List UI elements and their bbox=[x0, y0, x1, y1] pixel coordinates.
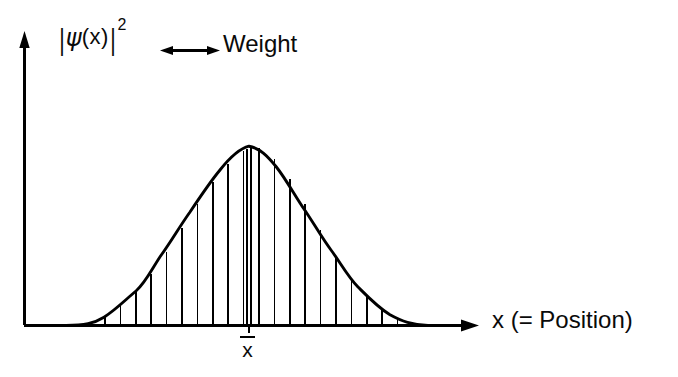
correspondence-arrowhead-right bbox=[207, 46, 220, 55]
psi-argument: (x) bbox=[82, 26, 109, 48]
abs-bar-open: | bbox=[59, 26, 64, 55]
squared-exponent: 2 bbox=[118, 17, 127, 33]
figure-root: | ψ (x) | 2 Weight x (= Position) x bbox=[0, 0, 678, 377]
x-axis-label: x (= Position) bbox=[492, 308, 633, 332]
correspondence-arrow-icon bbox=[160, 46, 220, 55]
y-axis bbox=[19, 31, 29, 325]
weight-label: Weight bbox=[223, 32, 297, 56]
correspondence-arrowhead-left bbox=[160, 46, 173, 55]
mean-label: x bbox=[240, 336, 255, 360]
x-axis-arrowhead bbox=[461, 320, 479, 332]
mean-symbol: x bbox=[240, 339, 255, 360]
psi-symbol: ψ bbox=[66, 26, 82, 50]
mean-line-group bbox=[247, 148, 251, 333]
y-axis-label: | ψ (x) | 2 bbox=[58, 26, 126, 55]
abs-bar-close: | bbox=[110, 26, 115, 55]
y-axis-arrowhead bbox=[19, 31, 29, 48]
